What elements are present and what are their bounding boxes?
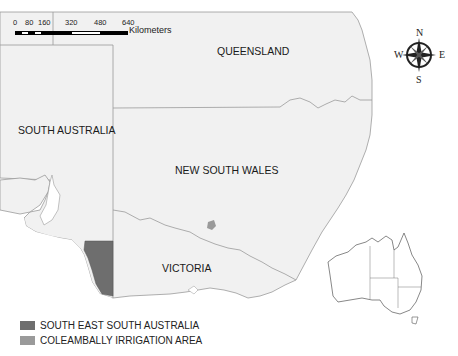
tasmania [412,317,418,324]
label-queensland: QUEENSLAND [217,45,289,57]
compass-n: N [416,27,423,38]
legend-swatch-light [20,336,35,345]
legend-label: SOUTH EAST SOUTH AUSTRALIA [40,320,199,331]
label-new-south-wales: NEW SOUTH WALES [175,164,278,176]
australia-inset-map [328,233,422,324]
scale-tick-480: 480 [94,18,107,27]
label-victoria: VICTORIA [162,262,211,274]
compass-rose [402,38,436,72]
legend-swatch-dark [20,321,35,330]
legend-item-se-sa: SOUTH EAST SOUTH AUSTRALIA [20,318,202,333]
compass-s: S [416,74,422,85]
legend: SOUTH EAST SOUTH AUSTRALIA COLEAMBALLY I… [20,318,202,348]
scale-bar [15,31,128,35]
scale-tick-80: 80 [25,18,33,27]
label-south-australia: SOUTH AUSTRALIA [18,124,115,136]
legend-label: COLEAMBALLY IRRIGATION AREA [40,335,202,346]
compass-w: W [394,49,403,60]
scale-tick-160: 160 [38,18,51,27]
legend-item-coleambally: COLEAMBALLY IRRIGATION AREA [20,333,202,348]
scale-tick-0: 0 [13,18,17,27]
australia-outline [328,233,422,314]
scale-tick-320: 320 [65,18,78,27]
scale-unit: Kilometers [129,25,172,35]
compass-e: E [439,49,445,60]
